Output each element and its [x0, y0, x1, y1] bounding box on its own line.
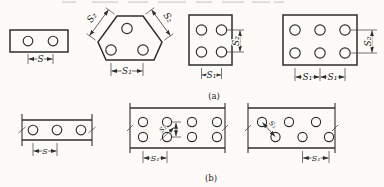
bolt-hole — [28, 125, 38, 135]
caption-row-a: (a) — [208, 91, 220, 101]
bolt-hole — [298, 132, 307, 141]
bolt-hole — [196, 25, 206, 35]
bolt-hole — [216, 47, 226, 57]
bolt-hole — [76, 125, 86, 135]
bolt-hole — [216, 25, 226, 35]
figure-b3-strip-staggered-holes: S₂ S₁ — [245, 103, 338, 163]
bolt-hole — [23, 36, 33, 46]
bolt-hole — [212, 117, 221, 126]
bolt-hole — [138, 132, 147, 141]
bolt-hole — [340, 25, 350, 35]
dim-label-s2: S₂ — [161, 11, 175, 25]
extension-line — [106, 8, 115, 15]
dim-label-s1: S₁ — [328, 72, 338, 82]
dim-label-s2: S₂ — [267, 119, 278, 130]
dim-label-s: S — [37, 54, 43, 64]
bolt-hole — [324, 132, 333, 141]
bolt-hole — [290, 25, 300, 35]
bolt-hole — [48, 36, 58, 46]
bolt-hole — [138, 45, 148, 55]
plate-outline — [10, 30, 68, 52]
bolt-hole — [138, 117, 147, 126]
bolt-hole — [311, 117, 320, 126]
dim-label-s1: S₁ — [151, 154, 160, 163]
bolt-hole — [52, 125, 62, 135]
bolt-hole — [290, 48, 300, 58]
figure-b2-strip-grid-holes: S₂ S₁ — [127, 103, 228, 163]
bolt-hole — [315, 48, 325, 58]
plate-outline — [189, 15, 232, 65]
figure-b1-strip-three-holes: S — [19, 114, 96, 156]
bolt-hole — [196, 47, 206, 57]
extension-line — [87, 34, 96, 41]
dim-label-s1: S₁ — [207, 70, 217, 80]
dim-label-s2: S₂ — [363, 36, 373, 46]
cropped-text-remnant — [62, 1, 284, 3]
bolt-hole — [315, 25, 325, 35]
bolt-hole — [122, 23, 132, 33]
dim-label-s2: S₂ — [85, 10, 99, 24]
bolt-hole — [340, 48, 350, 58]
engineering-diagram: S S₁ S₂ S₂ S₁ S₂ — [0, 0, 384, 187]
figure-a2-gusset-three-holes: S₁ S₂ S₂ — [85, 8, 176, 76]
bolt-hole — [284, 117, 293, 126]
extension-line — [164, 34, 173, 41]
figure-a3-plate-four-holes: S₁ S₂ — [189, 15, 244, 80]
dim-label-s1: S₁ — [122, 66, 132, 76]
dim-label-s: S — [42, 147, 48, 156]
bolt-hole — [212, 132, 221, 141]
caption-row-b: (b) — [205, 173, 217, 183]
dim-label-s2: S₂ — [231, 36, 241, 46]
bolt-hole — [106, 45, 116, 55]
bolt-hole — [187, 117, 196, 126]
figure-a4-plate-six-holes: S₂ S₁ S₁ — [283, 15, 377, 82]
bolt-hole — [187, 132, 196, 141]
dim-label-s1: S₁ — [312, 154, 321, 163]
figure-a1-plate-two-holes: S — [10, 30, 68, 64]
extension-line — [145, 8, 154, 15]
plate-outline — [283, 15, 357, 65]
bolt-spacing-figure: S S₁ S₂ S₂ S₁ S₂ — [0, 0, 384, 187]
dim-label-s1: S₁ — [303, 72, 313, 82]
